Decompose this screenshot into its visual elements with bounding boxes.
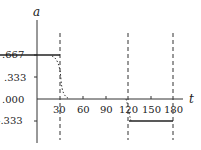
y-tick-label: .333 xyxy=(4,72,26,83)
y-tick-label: -.333 xyxy=(0,115,23,126)
x-tick-label: 150 xyxy=(142,104,161,115)
x-tick-label: 180 xyxy=(164,104,183,115)
y-axis-label: a xyxy=(33,5,40,19)
acceleration-chart: a t .667 .333 .000 -.333 30 60 90 120 15… xyxy=(0,0,201,150)
x-tick-label: 30 xyxy=(53,104,66,115)
x-axis-label: t xyxy=(189,92,194,106)
vertical-markers xyxy=(60,33,173,140)
x-tick-label: 60 xyxy=(77,104,90,115)
x-tick-label: 90 xyxy=(100,104,113,115)
y-ticks: .667 .333 .000 -.333 xyxy=(0,49,37,126)
smoothed-series xyxy=(52,56,70,99)
y-tick-label: .000 xyxy=(2,94,24,105)
